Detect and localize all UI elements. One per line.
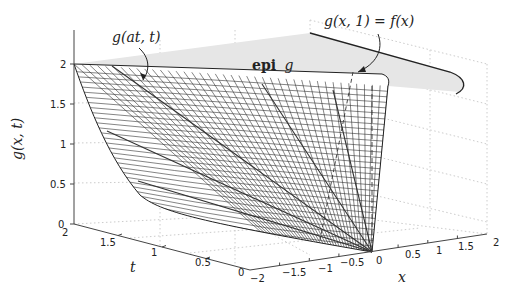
z-tick-1.5: 1.5 <box>50 99 66 110</box>
x-axis-label: x <box>398 269 406 285</box>
t-tick-2: 2 <box>62 227 68 238</box>
t-tick-1.5: 1.5 <box>100 237 116 248</box>
x-tick-1.5: 1.5 <box>458 241 474 252</box>
x-tick-0: 0 <box>376 255 382 266</box>
t-axis-label: t <box>130 259 136 275</box>
x-tick-neg2: −2 <box>250 273 265 284</box>
x-tick-neg1.5: −1.5 <box>282 267 306 278</box>
annotation-ray: g(at, t) <box>112 29 160 45</box>
z-axis-label: g(x, t) <box>9 118 25 160</box>
epi-var: g <box>284 57 293 73</box>
x-tick-neg0.5: −0.5 <box>340 257 364 268</box>
epi-bold: epi <box>252 57 276 73</box>
surface-plot: 0 0.5 1 1.5 2 2 1.5 1 0.5 0 −2 −1.5 −1 −… <box>0 0 524 300</box>
annotation-slice: g(x, 1) = f(x) <box>324 13 414 29</box>
x-tick-0.5: 0.5 <box>405 249 421 260</box>
t-tick-1: 1 <box>151 247 157 258</box>
x-tick-1: 1 <box>436 245 442 256</box>
x-tick-2: 2 <box>493 237 499 248</box>
epi-label: epi g <box>252 57 293 73</box>
z-tick-1: 1 <box>60 139 66 150</box>
z-tick-2: 2 <box>60 59 66 70</box>
t-tick-0: 0 <box>238 267 244 278</box>
x-tick-neg1: −1 <box>318 263 333 274</box>
t-tick-0.5: 0.5 <box>195 257 211 268</box>
z-tick-0.5: 0.5 <box>50 179 66 190</box>
